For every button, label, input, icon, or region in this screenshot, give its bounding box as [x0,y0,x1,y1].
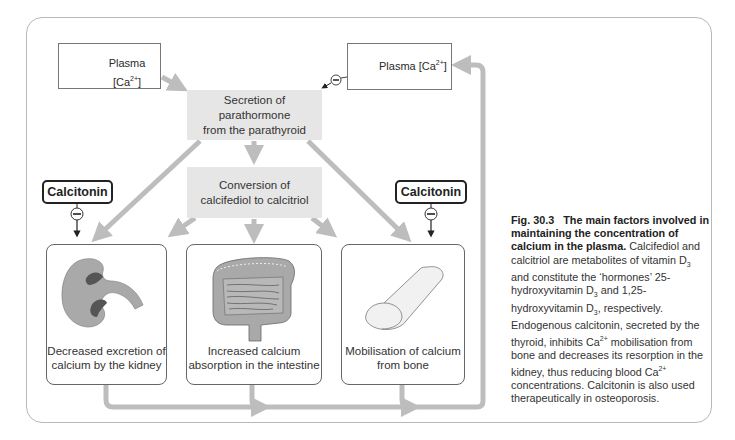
intestine-effect-label: Increased calciumabsorption in the intes… [187,344,321,372]
intestine-effect-box: Increased calciumabsorption in the intes… [186,244,322,385]
conversion-line-1: Conversion of [200,178,308,193]
plasma-calcium-high-box: Plasma [Ca2+] [347,43,452,90]
calcitonin-right-box: Calcitonin [395,180,467,204]
secretion-line-2: from the parathyroid [187,123,322,138]
figure-caption: Fig. 30.3 The main factors involved in m… [511,214,711,405]
plasma-calcium-low-box: Plasma [Ca2+] [58,43,161,89]
bone-effect-label: Mobilisation of calciumfrom bone [342,344,464,372]
intestine-icon [187,245,323,345]
conversion-line-2: calcifediol to calcitriol [200,193,308,208]
kidney-icon [47,245,168,335]
parathormone-secretion-box: Secretion of parathormonefrom the parath… [187,90,322,140]
kidney-effect-box: Decreased excretion ofcalcium by the kid… [46,244,167,385]
bone-effect-box: Mobilisation of calciumfrom bone [341,244,465,385]
caption-fig-label: Fig. 30.3 [511,214,554,226]
bone-icon [342,245,466,340]
calcitonin-left-box: Calcitonin [42,180,113,204]
secretion-line-1: Secretion of parathormone [187,93,322,123]
plasma-calcium-low-label: Plasma [Ca2+] [94,56,160,90]
kidney-effect-label: Decreased excretion ofcalcium by the kid… [47,344,166,372]
plasma-calcium-high-label: Plasma [Ca2+] [379,55,447,74]
calcitriol-conversion-box: Conversion ofcalcifediol to calcitriol [187,167,322,218]
